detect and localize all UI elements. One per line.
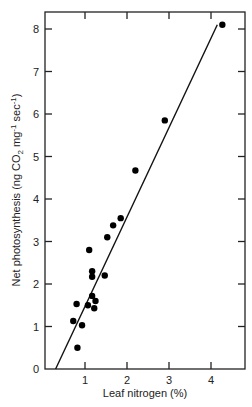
data-point bbox=[70, 318, 76, 324]
data-point bbox=[89, 268, 95, 274]
data-point bbox=[102, 272, 108, 278]
data-point bbox=[73, 301, 79, 307]
data-point bbox=[219, 22, 225, 28]
y-axis-label: Net photosynthesis (ng CO2 mg-1 sec-1) bbox=[9, 94, 25, 287]
x-tick-label: 3 bbox=[166, 374, 172, 386]
y-tick-label: 8 bbox=[33, 23, 39, 35]
data-point bbox=[118, 215, 124, 221]
y-tick-label: 5 bbox=[33, 151, 39, 163]
x-tick-label: 1 bbox=[82, 374, 88, 386]
data-point bbox=[85, 302, 91, 308]
y-tick-label: 3 bbox=[33, 236, 39, 248]
data-point bbox=[132, 167, 138, 173]
plot-frame bbox=[45, 12, 245, 369]
x-axis-ticks: 1234 bbox=[82, 12, 214, 386]
y-tick-label: 4 bbox=[33, 193, 39, 205]
x-tick-label: 4 bbox=[208, 374, 214, 386]
y-tick-label: 7 bbox=[33, 66, 39, 78]
y-tick-label: 1 bbox=[33, 321, 39, 333]
data-point bbox=[104, 234, 110, 240]
data-point bbox=[79, 322, 85, 328]
y-tick-label: 2 bbox=[33, 278, 39, 290]
data-point bbox=[91, 305, 97, 311]
y-tick-label: 0 bbox=[33, 363, 39, 375]
y-axis-ticks: 012345678 bbox=[33, 23, 245, 375]
data-point bbox=[92, 298, 98, 304]
data-point bbox=[162, 117, 168, 123]
x-tick-label: 2 bbox=[124, 374, 130, 386]
data-point bbox=[86, 247, 92, 253]
scatter-chart: 1234 012345678 Leaf nitrogen (%) Net pho… bbox=[0, 0, 252, 407]
data-point bbox=[74, 345, 80, 351]
data-point bbox=[89, 274, 95, 280]
regression-line bbox=[56, 25, 218, 369]
data-point bbox=[110, 222, 116, 228]
data-points bbox=[70, 22, 226, 351]
x-axis-label: Leaf nitrogen (%) bbox=[103, 387, 187, 399]
y-tick-label: 6 bbox=[33, 108, 39, 120]
